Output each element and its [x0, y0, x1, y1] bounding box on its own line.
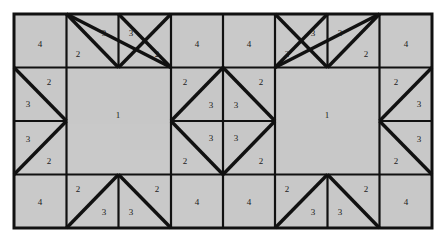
patch-label-r1c8: 4 — [404, 39, 409, 49]
quilt-pattern-canvas: 4233244233242312332123323232324233244233… — [0, 0, 444, 240]
patch-label-r2c4b: 3 — [209, 100, 214, 110]
patch-label-r1c2b: 3 — [102, 28, 107, 38]
patch-label-r1c7a: 3 — [338, 28, 343, 38]
patch-label-r4c5: 4 — [247, 197, 252, 207]
patch-label-r4c6b: 3 — [311, 207, 316, 217]
patch-label-r3c5a: 3 — [234, 133, 239, 143]
patch-label-r1c6b: 3 — [311, 28, 316, 38]
fabric-texture-c — [120, 60, 270, 150]
patch-label-r2c8b: 3 — [417, 99, 422, 109]
patch-label-r2c1b: 3 — [26, 99, 31, 109]
patch-label-r2c5b: 2 — [259, 77, 264, 87]
patch-label-r4c8: 4 — [404, 197, 409, 207]
patch-label-r4c3a: 3 — [129, 207, 134, 217]
patch-label-r4c7a: 3 — [338, 207, 343, 217]
patch-label-big-right: 1 — [325, 110, 330, 120]
patch-label-r3c8b: 2 — [394, 156, 399, 166]
patch-label-r1c1: 4 — [38, 39, 43, 49]
patch-label-r1c4: 4 — [195, 39, 200, 49]
patch-label-r1c7b: 2 — [364, 49, 369, 59]
quilt-diagram-figure: 4233244233242312332123323232324233244233… — [0, 0, 444, 240]
patch-label-r4c4: 4 — [195, 197, 200, 207]
patch-label-r2c1a: 2 — [47, 77, 52, 87]
patch-label-r3c1a: 3 — [26, 134, 31, 144]
patch-label-r1c2a: 2 — [76, 49, 81, 59]
patch-label-r4c6a: 2 — [285, 184, 290, 194]
patch-label-r3c5b: 2 — [259, 156, 264, 166]
patch-label-big-left: 1 — [116, 110, 121, 120]
patch-label-r4c2b: 3 — [102, 207, 107, 217]
patch-label-r3c1b: 2 — [47, 156, 52, 166]
patch-label-r3c8a: 3 — [417, 134, 422, 144]
patch-label-r1c5: 4 — [247, 39, 252, 49]
patch-label-r3c4b: 2 — [183, 156, 188, 166]
patch-label-r4c3b: 2 — [155, 184, 160, 194]
patch-label-r2c4a: 2 — [183, 77, 188, 87]
patch-label-r1c3a: 3 — [129, 28, 134, 38]
patch-label-r2c5a: 3 — [234, 100, 239, 110]
patch-label-r1c3b: 2 — [155, 49, 160, 59]
patch-label-r4c2a: 2 — [76, 184, 81, 194]
patch-label-r4c7b: 2 — [364, 184, 369, 194]
patch-label-r1c6a: 2 — [285, 49, 290, 59]
patch-label-r2c8a: 2 — [394, 77, 399, 87]
patch-label-r4c1: 4 — [38, 197, 43, 207]
patch-label-r3c4a: 3 — [209, 133, 214, 143]
